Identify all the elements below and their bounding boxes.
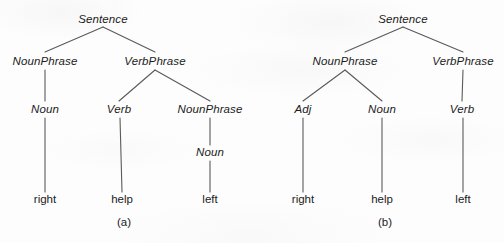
- tree-edge-a-v-to-a-w2: [120, 118, 122, 192]
- tree-node-a-np2: NounPhrase: [178, 104, 243, 116]
- tree-node-a-vp: VerbPhrase: [124, 56, 185, 68]
- tree-edge-b-s-to-b-vp: [403, 27, 463, 52]
- parse-tree-figure: SentenceNounPhraseVerbPhraseNounVerbNoun…: [0, 0, 504, 243]
- tree-edge-b-vp-to-b-v: [462, 70, 463, 101]
- tree-edge-a-vp-to-a-v: [119, 70, 155, 101]
- tree-node-b-w3: left: [455, 194, 470, 206]
- tree-node-b-adj: Adj: [295, 104, 312, 116]
- tree-edge-a-s-to-a-np1: [45, 27, 103, 52]
- tree-edge-a-vp-to-a-np2: [155, 70, 210, 101]
- tree-node-a-n1: Noun: [31, 104, 59, 116]
- tree-node-b-w1: right: [292, 194, 314, 206]
- tree-node-b-n: Noun: [368, 104, 396, 116]
- tree-node-a-s: Sentence: [78, 14, 127, 26]
- tree-node-a-w2: help: [111, 194, 133, 206]
- tree-edge-b-s-to-b-np: [345, 27, 403, 52]
- tree-node-a-np1: NounPhrase: [13, 56, 78, 68]
- tree-node-a-w3: left: [202, 194, 217, 206]
- panel-b-caption: (b): [378, 216, 392, 228]
- tree-node-a-w1: right: [34, 194, 56, 206]
- tree-node-b-s: Sentence: [378, 14, 427, 26]
- tree-node-b-vp: VerbPhrase: [432, 56, 493, 68]
- tree-edge-b-np-to-b-n: [345, 70, 382, 101]
- tree-node-b-np: NounPhrase: [313, 56, 378, 68]
- tree-node-b-w2: help: [371, 194, 393, 206]
- tree-node-b-v: Verb: [450, 104, 474, 116]
- tree-node-a-v: Verb: [107, 104, 131, 116]
- tree-edge-a-s-to-a-vp: [103, 27, 155, 52]
- tree-node-a-n2: Noun: [196, 147, 224, 159]
- panel-a-caption: (a): [117, 216, 131, 228]
- tree-edges-layer: [0, 0, 504, 243]
- tree-edge-b-np-to-b-adj: [303, 70, 345, 101]
